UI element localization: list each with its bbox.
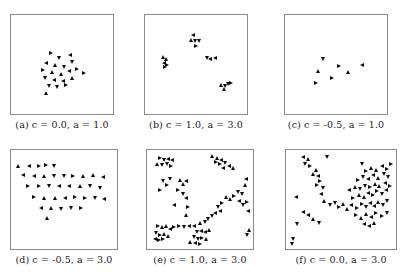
- data-point: [381, 203, 385, 207]
- data-point: [187, 224, 191, 228]
- data-point: [71, 174, 75, 178]
- data-point: [314, 81, 318, 85]
- data-point: [363, 184, 367, 188]
- data-point: [325, 155, 329, 159]
- data-point: [155, 162, 159, 166]
- data-point: [204, 237, 208, 241]
- data-point: [182, 225, 186, 229]
- subplot-figure: (a) c = 0.0, a = 1.0 (b) c = 1.0, a = 3.…: [0, 0, 416, 275]
- data-point: [231, 166, 235, 170]
- data-point: [169, 164, 173, 168]
- data-point: [245, 200, 249, 204]
- data-point: [385, 167, 389, 171]
- data-point: [42, 174, 46, 178]
- data-point: [184, 213, 188, 217]
- data-point: [368, 185, 372, 189]
- data-point: [355, 206, 359, 210]
- data-point: [311, 217, 315, 221]
- data-point: [57, 56, 61, 60]
- data-point: [240, 192, 244, 196]
- data-point: [101, 175, 105, 179]
- data-point: [161, 237, 165, 241]
- data-point: [369, 166, 373, 170]
- panel-f: (f) c = 0.0, a = 3.0: [285, 149, 397, 265]
- data-point: [374, 211, 378, 215]
- data-point: [306, 213, 310, 217]
- data-point: [37, 184, 41, 188]
- data-point: [357, 193, 361, 197]
- data-point: [364, 169, 368, 173]
- panel-caption-c: (c) c = -0.5, a = 1.0: [288, 119, 384, 130]
- data-point: [49, 206, 53, 210]
- data-point: [172, 225, 176, 229]
- data-point: [168, 177, 172, 181]
- data-point: [347, 188, 351, 192]
- data-point: [192, 224, 196, 228]
- data-point: [57, 184, 61, 188]
- data-point: [98, 186, 102, 190]
- data-point: [358, 187, 362, 191]
- data-point: [294, 195, 298, 199]
- plot-frame-e: [146, 149, 254, 250]
- data-point: [306, 157, 310, 161]
- data-point: [64, 83, 68, 87]
- data-point: [210, 154, 214, 158]
- panel-caption-a: (a) c = 0.0, a = 1.0: [15, 119, 108, 130]
- data-point: [52, 164, 56, 168]
- data-point: [317, 221, 321, 225]
- panel-caption-e: (e) c = 1.0, a = 3.0: [153, 254, 246, 265]
- data-point: [228, 197, 232, 201]
- data-point: [91, 173, 95, 177]
- data-point: [361, 175, 365, 179]
- data-point: [41, 68, 45, 72]
- data-point: [366, 191, 370, 195]
- data-point: [158, 188, 162, 192]
- data-point: [26, 184, 30, 188]
- data-point: [337, 64, 341, 68]
- data-point: [37, 164, 41, 168]
- data-point: [222, 87, 226, 91]
- data-point: [354, 213, 358, 217]
- data-point: [321, 186, 325, 190]
- data-point: [244, 177, 248, 181]
- data-point: [247, 228, 251, 232]
- data-point: [52, 174, 56, 178]
- data-point: [380, 192, 384, 196]
- data-point: [319, 192, 323, 196]
- data-point: [166, 234, 170, 238]
- data-point: [243, 183, 247, 187]
- data-point: [102, 197, 106, 201]
- panel-e: (e) c = 1.0, a = 3.0: [146, 149, 254, 265]
- data-point: [372, 204, 376, 208]
- data-point: [364, 212, 368, 216]
- data-point: [93, 196, 97, 200]
- data-point: [367, 224, 371, 228]
- plot-frame-b: [144, 14, 248, 115]
- data-point: [32, 174, 36, 178]
- data-point: [386, 175, 390, 179]
- panel-a: (a) c = 0.0, a = 1.0: [10, 14, 114, 130]
- data-point: [213, 56, 217, 60]
- data-point: [308, 164, 312, 168]
- data-point: [176, 188, 180, 192]
- data-point: [376, 176, 380, 180]
- data-point: [341, 202, 345, 206]
- data-point: [301, 210, 305, 214]
- data-point: [27, 164, 31, 168]
- data-point: [172, 203, 176, 207]
- data-point: [81, 174, 85, 178]
- data-point: [237, 199, 241, 203]
- data-point: [229, 81, 233, 85]
- data-point: [191, 33, 195, 37]
- data-point: [177, 224, 181, 228]
- data-point: [389, 162, 393, 166]
- plot-frame-c: [284, 14, 388, 115]
- data-point: [220, 201, 224, 205]
- data-point: [380, 214, 384, 218]
- data-point: [21, 173, 25, 177]
- data-point: [170, 158, 174, 162]
- data-point: [360, 162, 364, 166]
- data-point: [315, 183, 319, 187]
- data-point: [62, 174, 66, 178]
- data-point: [69, 206, 73, 210]
